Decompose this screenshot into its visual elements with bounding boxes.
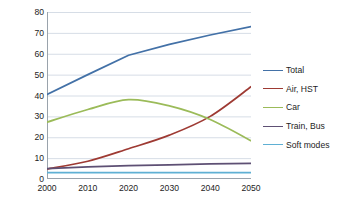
legend-label: Soft modes (286, 140, 329, 150)
y-tick-label: 60 (24, 49, 44, 58)
legend-label: Car (286, 102, 300, 112)
legend-item[interactable]: Soft modes (263, 135, 345, 154)
y-tick-label: 0 (24, 175, 44, 184)
plot-area (47, 12, 251, 179)
series-line (47, 100, 251, 141)
legend-color-swatch (263, 126, 283, 127)
plot-svg (47, 12, 251, 179)
y-tick-label: 70 (24, 29, 44, 38)
x-tick-label: 2050 (241, 184, 260, 193)
legend-color-swatch (263, 144, 283, 145)
chart-legend: TotalAir, HSTCarTrain, BusSoft modes (263, 61, 345, 154)
series-line (47, 27, 251, 95)
legend-label: Total (286, 65, 304, 75)
y-tick-label: 40 (24, 91, 44, 100)
y-tick-label: 30 (24, 112, 44, 121)
y-tick-label: 50 (24, 70, 44, 79)
x-tick-label: 2020 (119, 184, 138, 193)
x-tick-label: 2010 (78, 184, 97, 193)
legend-color-swatch (263, 88, 283, 89)
y-tick-label: 10 (24, 154, 44, 163)
series-line (47, 87, 251, 169)
x-axis-tick-labels: 200020102020203020402050 (47, 184, 251, 198)
x-tick-label: 2040 (201, 184, 220, 193)
line-chart: Kilomtre per day per person 010203040506… (0, 0, 347, 211)
y-tick-label: 80 (24, 8, 44, 17)
legend-color-swatch (263, 107, 283, 108)
x-tick-label: 2000 (37, 184, 56, 193)
legend-item[interactable]: Air, HST (263, 80, 345, 99)
legend-item[interactable]: Total (263, 61, 345, 80)
legend-color-swatch (263, 70, 283, 71)
legend-label: Train, Bus (286, 121, 325, 131)
legend-item[interactable]: Train, Bus (263, 117, 345, 136)
y-tick-label: 20 (24, 133, 44, 142)
y-axis-tick-labels: 01020304050607080 (24, 12, 44, 179)
legend-label: Air, HST (286, 84, 318, 94)
x-tick-label: 2030 (160, 184, 179, 193)
legend-item[interactable]: Car (263, 98, 345, 117)
